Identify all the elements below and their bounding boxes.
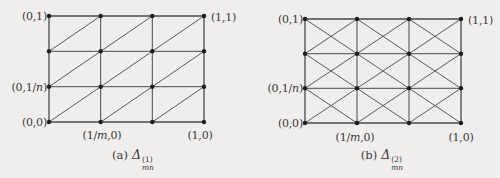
- node-label-b-bottom-mid: (1/m,0): [336, 132, 375, 143]
- node-label-b-bottom-right: (1,0): [448, 132, 473, 143]
- caption-b-subscript: mn: [391, 164, 403, 172]
- node-label-a-bottom-right: (1,0): [187, 130, 212, 141]
- node-label-a-bottom-mid: (1/m,0): [83, 130, 122, 141]
- node-label-b-top-left: (0,1): [278, 14, 303, 25]
- triangulation-figure: (0,1) (1,1) (0,1/n) (0,0) (1/m,0) (1,0) …: [0, 0, 500, 178]
- caption-a: (a)Δ(1)mn: [112, 149, 154, 171]
- node-label-b-mid-left: (0,1/n): [268, 83, 303, 94]
- node-label-a-mid-left: (0,1/n): [12, 82, 47, 93]
- delta-symbol-b: Δ: [381, 147, 390, 162]
- node-label-a-top-right: (1,1): [211, 12, 236, 23]
- mesh-grids-svg: [0, 0, 500, 178]
- node-label-a-bottom-left: (0,0): [22, 117, 47, 128]
- caption-a-prefix: (a): [112, 148, 128, 162]
- caption-b: (b)Δ(2)mn: [361, 149, 403, 171]
- caption-a-scripts: (1)mn: [142, 156, 154, 171]
- caption-b-prefix: (b): [361, 148, 377, 162]
- node-label-b-bottom-left: (0,0): [278, 118, 303, 129]
- caption-b-scripts: (2)mn: [391, 156, 403, 171]
- node-label-a-top-left: (0,1): [22, 11, 47, 22]
- delta-symbol-a: Δ: [132, 147, 141, 162]
- caption-a-subscript: mn: [142, 164, 154, 172]
- node-label-b-top-right: (1,1): [468, 15, 493, 26]
